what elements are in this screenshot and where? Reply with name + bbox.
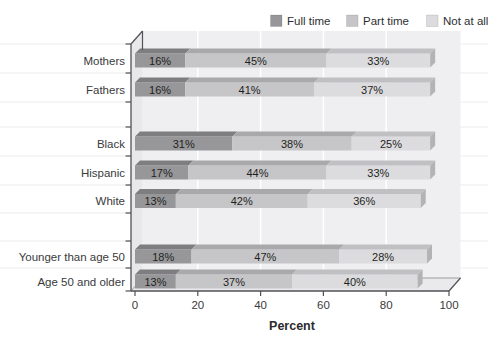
bar-segment-top [135,49,190,54]
bar-segment-top [135,189,181,194]
bar-segment-top [327,161,436,166]
legend-label: Part time [363,15,409,27]
bar-value-label: 16% [149,55,171,67]
bar-value-label: 28% [372,251,394,263]
bar-value-label: 33% [367,55,389,67]
plot-back-wall [143,31,461,278]
category-label: White [96,195,125,207]
bar-segment-top [176,270,297,275]
bar-segment-top [292,270,423,275]
legend-swatch [271,15,283,27]
legend-swatch [427,15,439,27]
legend-label: Full time [287,15,330,27]
bar-value-label: 31% [173,138,195,150]
bar-value-label: 33% [367,167,389,179]
x-tick-label: 60 [317,299,330,311]
bar-value-label: 44% [246,167,268,179]
x-tick-label: 40 [254,299,267,311]
bar-segment-top [135,132,237,137]
bar-value-label: 40% [344,276,366,288]
x-tick-label: 100 [439,299,458,311]
bar-segment-top [135,245,197,250]
bar-value-label: 13% [144,276,166,288]
bar-segment-top [339,245,432,250]
bar-segment-top [314,78,435,83]
bar-value-label: 25% [380,138,402,150]
bar-segment-top [135,270,181,275]
category-label: Mothers [83,55,125,67]
bar-value-label: 38% [281,138,303,150]
bar-segment-top [327,49,436,54]
bar-segment-top [176,189,313,194]
bar-value-label: 13% [144,195,166,207]
bar-value-label: 36% [353,195,375,207]
chart-figure: 16%45%33%Mothers16%41%37%Fathers31%38%25… [0,0,488,347]
bar-segment-top [188,161,331,166]
bar-value-label: 45% [245,55,267,67]
x-tick-label: 20 [191,299,204,311]
bar-value-label: 16% [149,84,171,96]
bar-value-label: 37% [361,84,383,96]
bar-value-label: 17% [151,167,173,179]
bar-segment-top [185,78,319,83]
category-label: Fathers [86,84,125,96]
bar-segment-top [135,78,190,83]
bar-value-label: 47% [254,251,276,263]
bar-segment-top [185,49,331,54]
stacked-bar-chart: 16%45%33%Mothers16%41%37%Fathers31%38%25… [0,0,488,347]
bar-segment-top [192,245,345,250]
bar-value-label: 37% [223,276,245,288]
x-tick-label: 0 [132,299,138,311]
bar-value-label: 41% [239,84,261,96]
x-axis-title: Percent [269,319,316,333]
bar-segment-top [135,161,193,166]
bar-value-label: 42% [231,195,253,207]
x-tick-label: 80 [380,299,393,311]
category-label: Younger than age 50 [19,251,125,263]
legend-label: Not at all [443,15,488,27]
bar-value-label: 18% [152,251,174,263]
legend-swatch [347,15,359,27]
bar-segment-top [352,132,436,137]
bar-segment-top [308,189,426,194]
category-label: Age 50 and older [37,276,125,288]
category-label: Hispanic [81,167,125,179]
bar-segment-top [232,132,356,137]
category-label: Black [97,138,125,150]
